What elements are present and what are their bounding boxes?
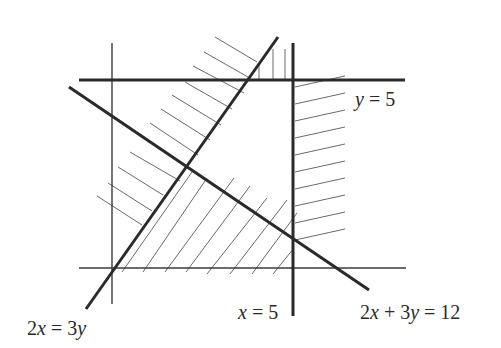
hatch-right-of-x5 xyxy=(295,76,345,240)
label-2x-equals-3y: 2x = 3y xyxy=(27,318,86,338)
label-x-equals-5: x = 5 xyxy=(238,302,278,322)
inequality-diagram xyxy=(0,0,501,348)
label-2x-plus-3y-equals-12: 2x + 3y = 12 xyxy=(360,302,460,322)
label-y-equals-5: y = 5 xyxy=(355,89,395,109)
hatch-above-y5 xyxy=(259,49,285,80)
